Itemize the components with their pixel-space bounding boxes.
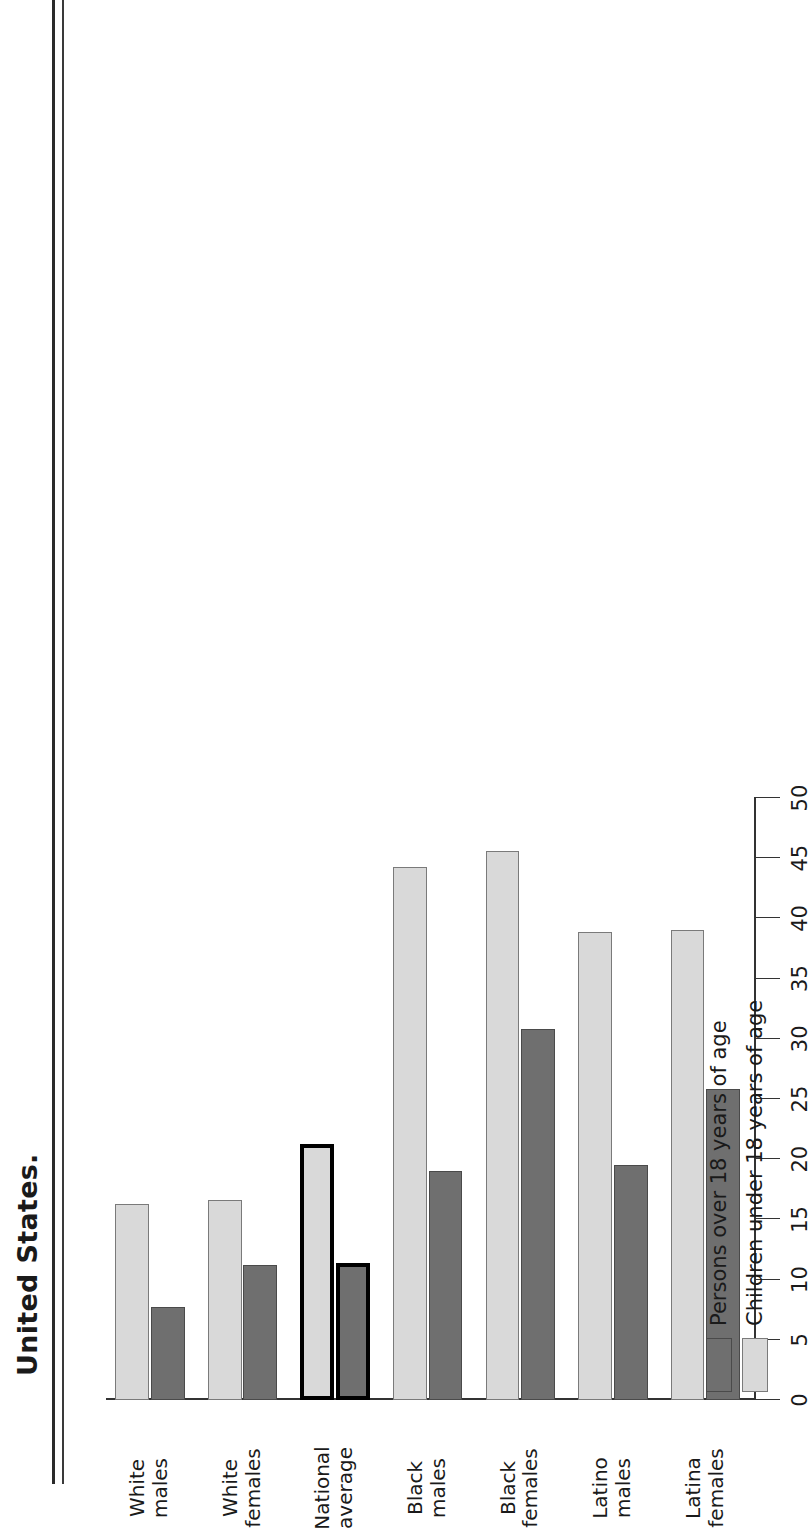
category-label: Latinomales <box>589 1408 635 1532</box>
category-label-line2: females <box>519 1408 542 1532</box>
category-label-line1: Latina <box>682 1408 705 1532</box>
bar-children-under-18 <box>393 867 427 1400</box>
plot-area: 05101520253035404550 WhitemalesWhitefema… <box>106 798 754 1400</box>
category-label-line1: National <box>311 1408 334 1532</box>
axis-tick <box>754 797 780 798</box>
bar-persons-over-18 <box>336 1263 370 1400</box>
axis-tick-label: 10 <box>788 1260 812 1300</box>
category-label: Nationalaverage <box>311 1408 357 1532</box>
category-label-line2: males <box>149 1408 172 1532</box>
bar-persons-over-18 <box>614 1165 648 1400</box>
bar-group <box>199 798 292 1400</box>
axis-tick <box>754 857 780 858</box>
category-label: Whitemales <box>126 1408 172 1532</box>
bar-persons-over-18 <box>429 1171 463 1400</box>
bar-group <box>106 798 199 1400</box>
bar-children-under-18 <box>578 932 612 1400</box>
category-label-line1: Black <box>404 1408 427 1532</box>
axis-tick-label: 40 <box>788 898 812 938</box>
legend-item-children: Children under 18 years of age <box>742 1000 768 1392</box>
figure-title: United States. <box>12 1153 43 1376</box>
bar-children-under-18 <box>671 930 705 1400</box>
category-label: Whitefemales <box>219 1408 265 1532</box>
category-label-line1: Latino <box>589 1408 612 1532</box>
axis-tick-label: 25 <box>788 1079 812 1119</box>
legend: Persons over 18 years of age Children un… <box>706 1000 778 1392</box>
bar-persons-over-18 <box>243 1265 277 1400</box>
bar-children-under-18 <box>208 1200 242 1400</box>
category-label-line1: White <box>126 1408 149 1532</box>
bar-children-under-18 <box>486 851 520 1400</box>
bar-group <box>569 798 662 1400</box>
category-label: Blackfemales <box>497 1408 543 1532</box>
axis-tick <box>754 917 780 918</box>
bar-children-under-18 <box>300 1144 334 1400</box>
bar-persons-over-18 <box>521 1029 555 1400</box>
bar-children-under-18 <box>115 1204 149 1400</box>
axis-tick <box>754 978 780 979</box>
axis-tick-label: 5 <box>788 1320 812 1360</box>
axis-tick-label: 50 <box>788 778 812 818</box>
category-label-line1: White <box>219 1408 242 1532</box>
axis-tick <box>754 1399 780 1400</box>
legend-swatch-children <box>742 1338 768 1392</box>
title-divider <box>52 0 64 1484</box>
bar-group <box>384 798 477 1400</box>
axis-tick-label: 20 <box>788 1139 812 1179</box>
bar-persons-over-18 <box>151 1307 185 1400</box>
axis-tick-label: 45 <box>788 838 812 878</box>
category-label-line2: males <box>612 1408 635 1532</box>
axis-tick-label: 0 <box>788 1380 812 1420</box>
bar-group <box>291 798 384 1400</box>
category-label: Blackmales <box>404 1408 450 1532</box>
category-label: Latinafemales <box>682 1408 728 1532</box>
axis-tick-label: 15 <box>788 1199 812 1239</box>
category-label-line2: average <box>334 1408 357 1532</box>
category-label-line2: males <box>427 1408 450 1532</box>
legend-swatch-adults <box>706 1338 732 1392</box>
legend-item-adults: Persons over 18 years of age <box>706 1000 732 1392</box>
category-label-line2: females <box>242 1408 265 1532</box>
category-label-line2: females <box>705 1408 728 1532</box>
bar-group <box>476 798 569 1400</box>
axis-tick-label: 30 <box>788 1019 812 1059</box>
axis-tick-label: 35 <box>788 959 812 999</box>
legend-label-adults: Persons over 18 years of age <box>707 1020 731 1326</box>
legend-label-children: Children under 18 years of age <box>743 1000 767 1326</box>
category-label-line1: Black <box>497 1408 520 1532</box>
